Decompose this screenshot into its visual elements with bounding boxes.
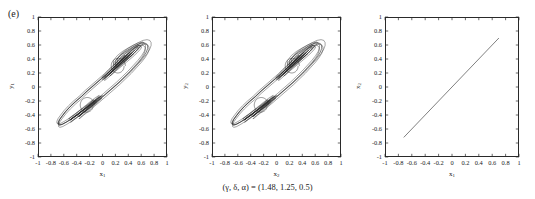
plot-panel-3: x2 x1 -1-1-0.8-0.8-0.6-0.6-0.4-0.4-0.2-0… [356,0,535,199]
y-tick-label: -0.4 [186,112,209,118]
y-tick-label: -0.2 [12,98,35,104]
y-tick-label: -0.6 [12,126,35,132]
y-tick-label: 0.6 [359,42,382,48]
y-tick-label: -0.2 [359,98,382,104]
y-tick-label: 0 [12,84,35,90]
y-tick-label: 0.8 [12,28,35,34]
y-tick-label: 1 [12,14,35,20]
y-tick-label: 0.6 [12,42,35,48]
y-tick-label: 0 [359,84,382,90]
plot-panel-2: y2 x2 -1-1-0.8-0.8-0.6-0.6-0.4-0.4-0.2-0… [178,0,356,199]
y-tick-label: 0.8 [359,28,382,34]
y-tick-label: -0.2 [186,98,209,104]
y-tick-label: 0.2 [359,70,382,76]
plot-panel-1: (e) y1 x1 -1-1-0.8-0.8-0.6-0.6-0.4-0.4-0… [0,0,178,199]
y-tick-label: -0.4 [12,112,35,118]
x-axis-label-1: x1 [38,170,167,178]
x-axis-label-2: x2 [212,170,341,178]
y-tick-label: 0.2 [12,70,35,76]
y-tick-label: 0.8 [186,28,209,34]
figure-caption: (γ, δ, α) = (1.48, 1.25, 0.5) [0,182,535,192]
y-tick-label: 0.2 [186,70,209,76]
y-tick-label: 0.4 [12,56,35,62]
x-tick-label: 1 [509,160,529,166]
y-tick-label: 0 [186,84,209,90]
y-tick-label: 0.4 [186,56,209,62]
y-tick-label: 1 [186,14,209,20]
y-tick-label: 1 [359,14,382,20]
x-tick-label: 1 [331,160,351,166]
x-tick-label: 1 [157,160,177,166]
y-tick-label: -0.8 [359,140,382,146]
y-tick-label: -0.8 [186,140,209,146]
y-tick-label: 0.4 [359,56,382,62]
y-tick-label: -0.4 [359,112,382,118]
y-tick-label: -0.6 [186,126,209,132]
y-tick-label: -0.8 [12,140,35,146]
y-tick-label: -0.6 [359,126,382,132]
x-axis-label-3: x1 [385,170,519,178]
figure-container: (e) y1 x1 -1-1-0.8-0.8-0.6-0.6-0.4-0.4-0… [0,0,535,199]
y-tick-label: 0.6 [186,42,209,48]
